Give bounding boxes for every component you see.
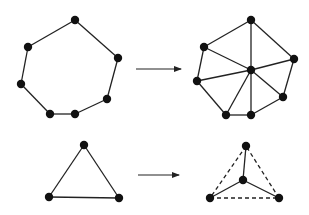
node: [290, 55, 298, 63]
node: [242, 142, 250, 150]
edge: [251, 20, 294, 59]
heptagon-after: [193, 16, 298, 119]
node: [247, 66, 255, 74]
node: [45, 193, 53, 201]
edge: [243, 146, 246, 180]
edge: [197, 47, 204, 81]
node: [80, 141, 88, 149]
edge: [107, 58, 118, 99]
dashed-edge: [210, 146, 246, 198]
triangle-before: [45, 141, 123, 202]
edge: [49, 145, 84, 197]
node: [103, 95, 111, 103]
edge: [251, 70, 283, 97]
edge: [84, 145, 119, 198]
node: [71, 16, 79, 24]
edge: [226, 70, 251, 115]
node: [200, 43, 208, 51]
edge: [28, 20, 75, 47]
arrows: [136, 69, 181, 175]
edge: [75, 99, 107, 114]
node: [239, 176, 247, 184]
edge: [21, 47, 28, 84]
node: [247, 111, 255, 119]
edge: [251, 59, 294, 70]
heptagon-before: [17, 16, 122, 118]
node: [247, 16, 255, 24]
node: [114, 54, 122, 62]
edge: [210, 180, 243, 198]
edge: [75, 20, 118, 58]
node: [193, 77, 201, 85]
node: [24, 43, 32, 51]
edge: [197, 81, 226, 115]
edge: [49, 197, 119, 198]
edge: [251, 97, 283, 115]
edge: [204, 47, 251, 70]
edge: [204, 20, 251, 47]
triangle-after: [206, 142, 283, 202]
node: [17, 80, 25, 88]
node: [206, 194, 214, 202]
node: [46, 110, 54, 118]
node: [222, 111, 230, 119]
diagram-canvas: [0, 0, 309, 215]
edge: [197, 70, 251, 81]
edge: [283, 59, 294, 97]
edge: [21, 84, 50, 114]
node: [115, 194, 123, 202]
node: [275, 194, 283, 202]
node: [71, 110, 79, 118]
node: [279, 93, 287, 101]
